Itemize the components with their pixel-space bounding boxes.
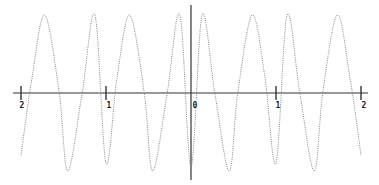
tick-label-pos2: 2 bbox=[362, 102, 367, 110]
tick-label-neg1: 1 bbox=[107, 102, 112, 110]
chart-plot-area bbox=[0, 0, 379, 185]
tick-label-zero: 0 bbox=[193, 102, 198, 110]
tick-label-pos1: 1 bbox=[276, 102, 281, 110]
tick-label-neg2: 2 bbox=[20, 102, 25, 110]
